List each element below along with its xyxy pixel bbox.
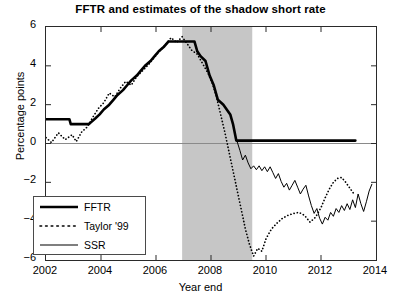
chart-figure: FFTR and estimates of the shadow short r… bbox=[0, 0, 401, 302]
legend-label-fftr: FFTR bbox=[84, 201, 111, 213]
legend-item-taylor: Taylor '99 bbox=[34, 216, 145, 235]
y-tick-label: 0 bbox=[6, 135, 36, 147]
y-tick-label: −6 bbox=[6, 251, 36, 263]
chart-legend: FFTR Taylor '99 SSR bbox=[33, 196, 146, 255]
legend-item-fftr: FFTR bbox=[34, 197, 145, 216]
x-tick-label: 2014 bbox=[355, 264, 395, 276]
legend-label-taylor: Taylor '99 bbox=[84, 220, 129, 232]
legend-swatch-solid-thick bbox=[39, 202, 79, 212]
legend-label-ssr: SSR bbox=[84, 239, 106, 251]
x-tick-label: 2012 bbox=[300, 264, 340, 276]
y-tick-label: 2 bbox=[6, 96, 36, 108]
y-tick-label: −2 bbox=[6, 173, 36, 185]
series-ssr bbox=[237, 142, 372, 225]
y-tick-label: 4 bbox=[6, 57, 36, 69]
y-tick-label: −4 bbox=[6, 212, 36, 224]
x-tick-label: 2010 bbox=[245, 264, 285, 276]
x-axis-title: Year end bbox=[0, 281, 401, 293]
x-tick-label: 2004 bbox=[80, 264, 120, 276]
x-tick-label: 2008 bbox=[190, 264, 230, 276]
x-tick-label: 2006 bbox=[135, 264, 175, 276]
x-tick-label: 2002 bbox=[25, 264, 65, 276]
y-tick-label: 6 bbox=[6, 18, 36, 30]
legend-swatch-dotted bbox=[39, 221, 79, 231]
chart-title: FFTR and estimates of the shadow short r… bbox=[0, 3, 401, 15]
legend-swatch-solid-thin bbox=[39, 240, 79, 250]
legend-item-ssr: SSR bbox=[34, 235, 145, 254]
